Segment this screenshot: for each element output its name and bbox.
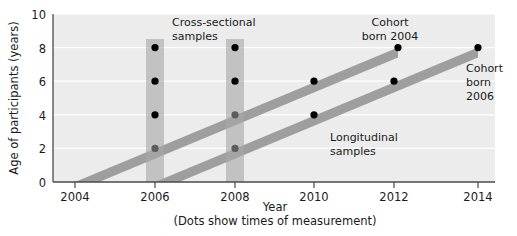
y-tick-4: 4 — [39, 109, 46, 123]
y-tick-6: 6 — [39, 75, 46, 89]
annotation-cohort-2006-line3: 2006 — [466, 90, 494, 103]
annotation-cross-sectional-line2: samples — [172, 30, 218, 43]
annotation-cohort-2006: Cohort born 2006 — [466, 62, 504, 103]
cross-sectional-bar-2008 — [226, 39, 244, 182]
x-tick-2010: 2010 — [299, 190, 328, 204]
annotation-cross-sectional-line1: Cross-sectional — [172, 16, 256, 29]
y-tick-2: 2 — [39, 142, 46, 156]
plot-area-background — [53, 14, 495, 182]
y-tick-0: 0 — [39, 176, 46, 190]
y-tick-8: 8 — [39, 42, 46, 56]
x-axis-subtitle: (Dots show times of measurement) — [174, 214, 377, 228]
annotation-cohort-2004-line2: born 2004 — [362, 30, 419, 43]
x-tick-2014: 2014 — [463, 190, 492, 204]
annotation-longitudinal-line2: samples — [330, 145, 376, 158]
x-tick-2004: 2004 — [60, 190, 89, 204]
annotation-cohort-2004-line1: Cohort — [372, 16, 410, 29]
x-tick-2012: 2012 — [379, 190, 408, 204]
annotation-cohort-2006-line2: born — [466, 76, 491, 89]
y-axis-tick-labels: 10 8 6 4 2 0 — [31, 8, 46, 190]
y-tick-10: 10 — [31, 8, 46, 22]
x-tick-2006: 2006 — [140, 190, 169, 204]
baseline-mask — [53, 182, 495, 196]
x-tick-2008: 2008 — [220, 190, 249, 204]
chart-svg: 10 8 6 4 2 0 2004 2006 2008 2010 2012 20… — [0, 0, 517, 236]
chart-figure: 10 8 6 4 2 0 2004 2006 2008 2010 2012 20… — [0, 0, 517, 236]
annotation-longitudinal-line1: Longitudinal — [330, 131, 398, 144]
cross-sectional-bar-2006 — [146, 39, 164, 182]
y-axis-title: Age of participants (years) — [7, 21, 21, 174]
x-axis-title: Year — [262, 200, 288, 214]
annotation-cohort-2006-line1: Cohort — [466, 62, 504, 75]
